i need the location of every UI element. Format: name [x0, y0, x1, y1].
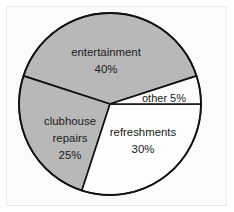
slice-label-clubhouse-name-2: repairs — [53, 132, 88, 144]
slice-label-entertainment-value: 40% — [95, 63, 118, 75]
pie-chart-figure: entertainment 40% other 5% refreshments … — [0, 0, 234, 212]
slice-label-entertainment-name: entertainment — [71, 46, 141, 58]
slice-label-clubhouse-value: 25% — [59, 149, 82, 161]
slice-label-other: other 5% — [142, 92, 186, 104]
slice-label-clubhouse-name-1: clubhouse — [44, 115, 96, 127]
pie-chart-canvas: entertainment 40% other 5% refreshments … — [0, 0, 234, 212]
slice-label-refreshments-value: 30% — [132, 143, 155, 155]
slice-label-refreshments-name: refreshments — [110, 126, 177, 138]
